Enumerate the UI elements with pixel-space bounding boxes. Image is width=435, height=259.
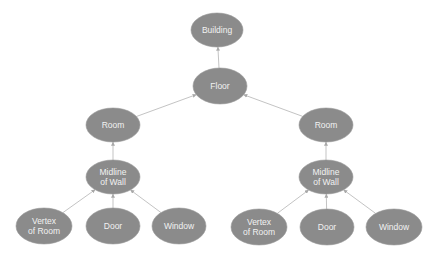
node-vertex_right: Vertexof Room	[231, 209, 287, 245]
edge-arrow-vertex_right-to-midline_right	[277, 190, 308, 213]
node-midline_right: Midlineof Wall	[299, 160, 353, 194]
edge-arrow-vertex_left-to-midline_left	[63, 190, 95, 213]
node-label: Door	[318, 222, 337, 232]
node-label: Floor	[210, 81, 230, 91]
edge-arrow-room_left-to-floor	[136, 95, 196, 117]
node-vertex_left: Vertexof Room	[16, 208, 72, 244]
node-label: Vertex	[247, 217, 272, 227]
edge-arrow-window_left-to-midline_left	[131, 190, 162, 213]
node-window_right: Window	[366, 209, 422, 245]
node-label: Vertex	[32, 216, 57, 226]
node-label: Door	[104, 221, 123, 231]
node-floor: Floor	[193, 68, 247, 104]
node-label: Building	[202, 25, 233, 35]
edge-arrow-floor-to-building	[218, 47, 219, 68]
edge-arrow-room_right-to-floor	[244, 95, 303, 117]
node-label: of Wall	[100, 177, 126, 187]
hierarchy-diagram: BuildingFloorRoomRoomMidlineof WallMidli…	[0, 0, 435, 259]
node-room_right: Room	[299, 108, 353, 142]
node-label: Window	[379, 222, 410, 232]
node-label: of Room	[243, 227, 275, 237]
node-window_left: Window	[152, 208, 206, 244]
edge-arrow-window_right-to-midline_right	[344, 190, 376, 214]
node-label: Room	[102, 120, 125, 130]
node-label: of Room	[28, 226, 60, 236]
node-label: Room	[315, 120, 338, 130]
node-building: Building	[191, 13, 243, 47]
node-label: of Wall	[313, 177, 339, 187]
node-midline_left: Midlineof Wall	[86, 160, 140, 194]
node-door_right: Door	[300, 209, 354, 245]
node-room_left: Room	[86, 108, 140, 142]
node-layer: BuildingFloorRoomRoomMidlineof WallMidli…	[16, 13, 422, 245]
node-label: Midline	[100, 167, 127, 177]
node-label: Window	[164, 221, 195, 231]
node-label: Midline	[313, 167, 340, 177]
node-door_left: Door	[86, 208, 140, 244]
